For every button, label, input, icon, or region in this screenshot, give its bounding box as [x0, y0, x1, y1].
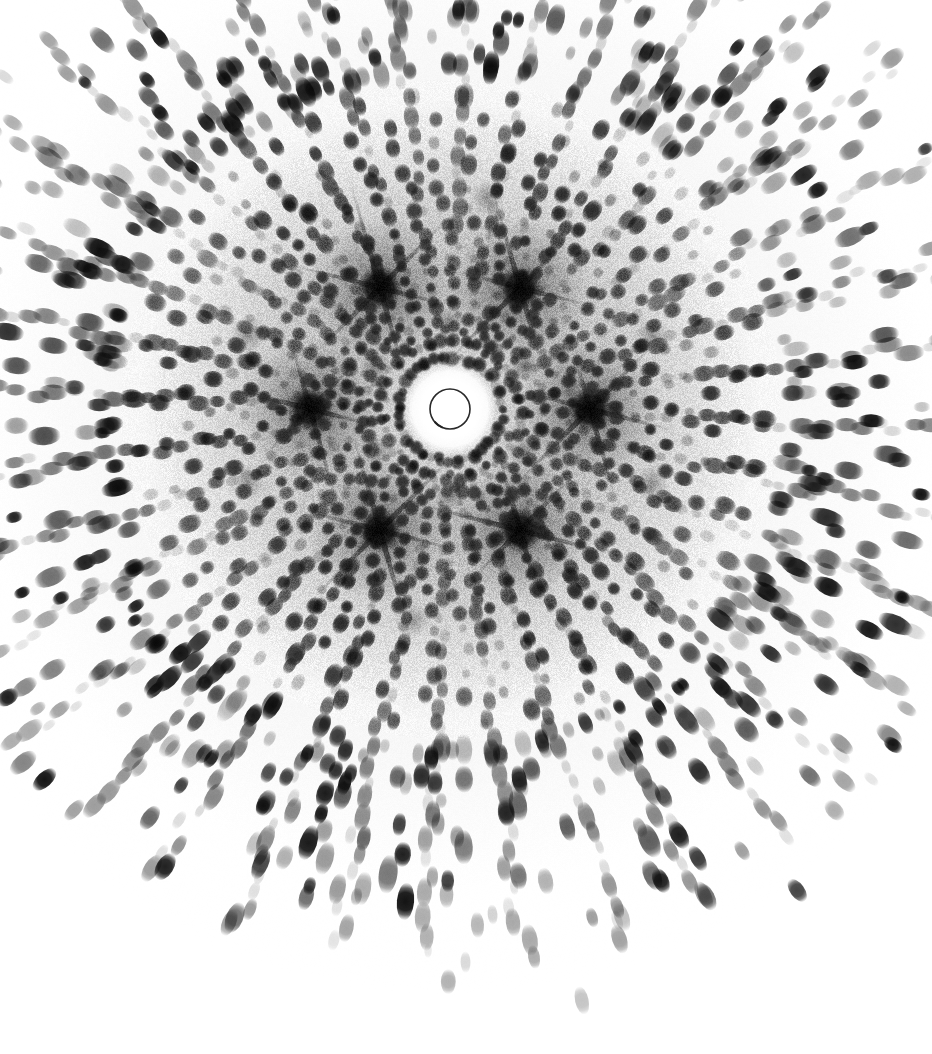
diffraction-photograph — [0, 0, 932, 1054]
diffraction-pattern-canvas — [0, 0, 932, 1054]
